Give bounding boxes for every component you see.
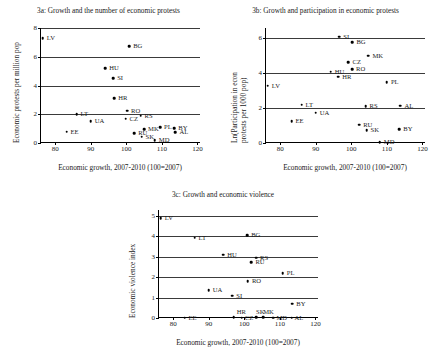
data-point-label: BG — [133, 43, 142, 50]
data-point-label: PL — [391, 79, 399, 86]
data-point-label: LV — [165, 215, 173, 222]
y-axis-tick — [38, 28, 41, 29]
data-point — [281, 272, 284, 275]
data-point-label: UA — [320, 109, 330, 116]
data-point — [351, 68, 354, 71]
data-point-label: LT — [306, 101, 313, 108]
y-axis-tick-label: 2 — [152, 274, 156, 281]
data-point-label: CZ — [130, 115, 138, 122]
data-point — [291, 302, 294, 305]
data-point-label: BG — [356, 39, 365, 46]
data-point — [347, 61, 350, 64]
data-point — [128, 45, 131, 48]
data-point — [193, 236, 196, 239]
x-axis-tick-label: 90 — [87, 146, 94, 153]
data-point — [159, 126, 162, 129]
data-point-label: LV — [272, 82, 280, 89]
x-axis-tick-label: 100 — [239, 321, 250, 328]
data-point — [399, 104, 402, 107]
x-axis-tick-label: 100 — [346, 146, 357, 153]
x-axis-tick-label: 120 — [417, 146, 428, 153]
gridline — [41, 57, 200, 58]
y-axis-tick — [156, 298, 159, 299]
data-point-label: SI — [236, 292, 242, 299]
gridline — [159, 216, 318, 217]
data-point — [41, 37, 44, 40]
y-axis-tick-label: 4 — [259, 70, 263, 77]
y-axis-tick-label: 2 — [34, 111, 38, 118]
data-point-label: SI — [117, 75, 123, 82]
data-point-label: CZ — [245, 314, 253, 321]
data-point-label: RO — [131, 107, 140, 114]
data-point-label: SK — [371, 127, 379, 134]
data-point-label: EE — [189, 314, 197, 321]
y-axis-tick-label: 4 — [152, 233, 156, 240]
data-point — [113, 97, 116, 100]
y-axis-tick — [263, 38, 266, 39]
gridline — [41, 86, 200, 87]
data-point-label: RO — [252, 278, 261, 285]
axis-label-x-3c: Economic growth, 2007-2010 (100=2007) — [176, 338, 300, 347]
data-point — [246, 234, 249, 237]
data-point-label: SI — [343, 33, 349, 40]
data-point-label: MK — [263, 309, 274, 316]
panel-3a-title: 3a: Growth and the number of economic pr… — [0, 6, 217, 15]
data-point-label: HR — [342, 73, 351, 80]
data-point — [364, 105, 367, 108]
x-axis-tick-label: 90 — [205, 321, 212, 328]
data-point — [290, 120, 293, 123]
data-point — [266, 84, 269, 87]
data-point-label: HU — [109, 65, 119, 72]
y-axis-tick — [38, 57, 41, 58]
x-axis-tick-label: 80 — [277, 146, 284, 153]
axis-label-y-3b-line2: protests per 1000 pop) — [240, 72, 249, 143]
data-point-label: MD — [276, 314, 287, 321]
axis-label-y-3a: Economic protests per million pop — [12, 42, 21, 143]
data-point-label: BY — [296, 300, 305, 307]
y-axis-tick — [263, 143, 266, 144]
data-point-label: AL — [295, 314, 304, 321]
data-point — [133, 132, 136, 135]
data-point-label: RS — [145, 112, 153, 119]
axis-label-x-3a: Economic growth, 2007-2010 (100=2007) — [58, 163, 182, 172]
x-axis-tick-label: 90 — [312, 146, 319, 153]
data-point — [231, 294, 234, 297]
data-point — [183, 316, 186, 319]
y-axis-tick — [156, 236, 159, 237]
data-point-label: PL — [287, 270, 295, 277]
plot-area-3c: 0123458090100110120LVLTBGHURSRUPLROUASIB… — [158, 210, 318, 318]
data-point-label: LT — [81, 111, 88, 118]
data-point — [75, 113, 78, 116]
y-axis-tick — [263, 73, 266, 74]
data-point — [124, 117, 127, 120]
panel-3c: 3c: Growth and economic violence 0123458… — [108, 190, 338, 358]
y-axis-tick — [156, 257, 159, 258]
data-point-label: EE — [71, 128, 79, 135]
y-axis-tick-label: 2 — [259, 105, 263, 112]
data-point-label: HU — [227, 252, 237, 259]
data-point — [337, 75, 340, 78]
gridline — [266, 108, 425, 109]
data-point — [329, 70, 332, 73]
x-axis-tick-label: 120 — [192, 146, 203, 153]
data-point — [65, 130, 68, 133]
x-axis-tick-label: 110 — [382, 146, 392, 153]
x-axis-tick-label: 110 — [157, 146, 167, 153]
data-point — [314, 111, 317, 114]
y-axis-tick — [38, 143, 41, 144]
data-point-label: LV — [47, 35, 55, 42]
data-point-label: MD — [159, 137, 170, 144]
data-point-label: UA — [95, 118, 105, 125]
data-point — [338, 35, 341, 38]
y-axis-tick-label: 1 — [152, 294, 156, 301]
y-axis-tick-label: 8 — [34, 25, 38, 32]
data-point-label: PL — [164, 124, 172, 131]
data-point — [104, 67, 107, 70]
gridline — [159, 257, 318, 258]
data-point-label: RO — [356, 66, 365, 73]
data-point-label: AL — [179, 129, 188, 136]
y-axis-tick-label: 6 — [259, 35, 263, 42]
data-point — [272, 316, 275, 319]
gridline — [41, 28, 200, 29]
data-point-label: RU — [255, 259, 264, 266]
